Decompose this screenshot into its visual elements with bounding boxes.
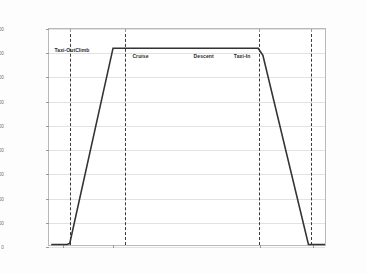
gridline — [49, 247, 325, 248]
x-tick-mark — [63, 245, 64, 248]
y-tick-label: 6000 — [0, 100, 4, 105]
y-tick-label: 2000 — [0, 197, 4, 202]
y-tick-label: 4000 — [0, 148, 4, 153]
y-tick-label: 5000 — [0, 124, 4, 129]
flight-profile-path — [51, 48, 325, 244]
plot-area: 9000800070006000500040003000200010000 Ta… — [48, 28, 326, 246]
flight-profile-chart: Flight Altitude (ft) 9000800070006000500… — [0, 0, 367, 274]
flight-profile-line — [49, 29, 325, 245]
y-tick-mark — [46, 247, 49, 248]
y-tick-label: 0 — [0, 245, 4, 250]
x-tick-mark — [113, 245, 114, 248]
y-tick-label: 9000 — [0, 27, 4, 32]
x-tick-mark — [313, 245, 314, 248]
y-tick-label: 3000 — [0, 172, 4, 177]
y-tick-label: 8000 — [0, 51, 4, 56]
y-tick-label: 1000 — [0, 221, 4, 226]
x-tick-mark — [260, 245, 261, 248]
y-tick-label: 7000 — [0, 75, 4, 80]
